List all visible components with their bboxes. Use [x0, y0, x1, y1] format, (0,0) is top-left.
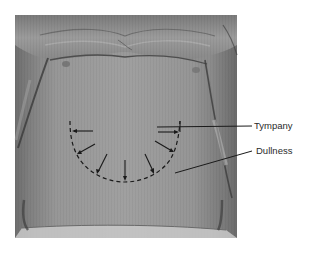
dullness-label: Dullness — [256, 145, 292, 156]
tympany-label: Tympany — [254, 120, 293, 131]
